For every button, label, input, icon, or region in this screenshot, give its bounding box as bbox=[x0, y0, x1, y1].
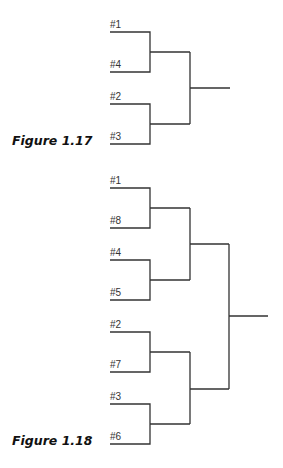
bracket-line-round1-b bbox=[110, 104, 190, 144]
bracket-line-final bbox=[190, 52, 230, 124]
bracket-line-round2-b bbox=[190, 352, 229, 424]
bracket-line-round1-a bbox=[110, 32, 190, 72]
bracket-line-round1-a bbox=[110, 188, 190, 228]
seed-label: #3 bbox=[110, 131, 122, 142]
seed-label: #1 bbox=[110, 19, 122, 30]
brackets-canvas: #1 #4 #2 #3 Figure 1.17 #1 #8 #4 #5 #2 #… bbox=[0, 0, 283, 468]
seed-label: #3 bbox=[110, 391, 122, 402]
seed-label: #4 bbox=[110, 247, 122, 258]
seed-label: #6 bbox=[110, 431, 122, 442]
seed-label: #8 bbox=[110, 215, 122, 226]
bracket-line-round1-d bbox=[110, 404, 190, 444]
seed-label: #1 bbox=[110, 175, 122, 186]
bracket-4-team: #1 #4 #2 #3 Figure 1.17 bbox=[12, 19, 230, 148]
bracket-line-round2-a bbox=[190, 208, 229, 280]
bracket-8-team: #1 #8 #4 #5 #2 #7 #3 #6 Figure 1.18 bbox=[12, 175, 268, 448]
seed-label: #4 bbox=[110, 59, 122, 70]
seed-label: #7 bbox=[110, 359, 122, 370]
seed-label: #5 bbox=[110, 287, 122, 298]
bracket-line-final bbox=[229, 244, 268, 389]
figure-caption: Figure 1.17 bbox=[12, 133, 93, 148]
bracket-line-round1-b bbox=[110, 260, 190, 300]
figure-caption: Figure 1.18 bbox=[12, 433, 93, 448]
seed-label: #2 bbox=[110, 319, 122, 330]
bracket-line-round1-c bbox=[110, 332, 190, 372]
seed-label: #2 bbox=[110, 91, 122, 102]
